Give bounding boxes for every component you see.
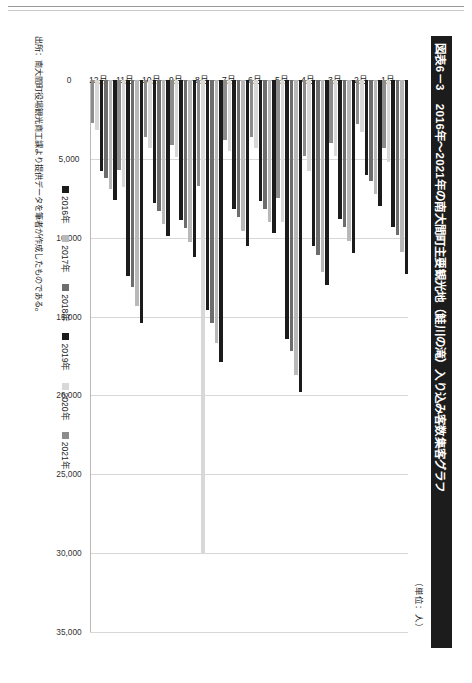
month-group: [196, 80, 223, 632]
bar-7月-2017年: [241, 80, 245, 231]
legend-swatch-icon: [63, 333, 70, 340]
bar-2月-2019年: [365, 80, 369, 175]
legend-label: 2021年: [60, 441, 72, 469]
bar-6月-2021年: [250, 80, 254, 137]
bar-10月-2019年: [153, 80, 157, 203]
bar-9月-2016年: [193, 80, 197, 257]
bar-2月-2018年: [369, 80, 373, 181]
bar-8月-2021年: [197, 80, 201, 186]
bar-4月-2018年: [316, 80, 320, 255]
bar-5月-2017年: [294, 80, 298, 375]
bar-4月-2016年: [325, 80, 329, 285]
bar-5月-2019年: [285, 80, 289, 339]
legend-label: 2017年: [60, 245, 72, 273]
bar-1月-2019年: [391, 80, 395, 227]
bar-3月-2020年: [334, 80, 338, 156]
bar-5月-2016年: [299, 80, 303, 392]
bar-10月-2016年: [166, 80, 170, 236]
month-group: [302, 80, 329, 632]
bar-2月-2020年: [360, 80, 364, 132]
legend-item-2018年: 2018年: [60, 284, 72, 322]
bar-11月-2021年: [117, 80, 121, 170]
bar-9月-2021年: [170, 80, 174, 145]
bar-8月-2020年: [201, 80, 205, 553]
x-axis-tick-label: 0: [49, 75, 89, 85]
chart-legend: 2016年2017年2018年2019年2020年2021年: [60, 186, 72, 470]
bar-12月-2016年: [113, 80, 117, 200]
bar-9月-2019年: [179, 80, 183, 220]
chart-plot-area: 05,00010,00015,00020,00025,00030,00035,0…: [90, 80, 408, 632]
source-note: 出所：南大間町役場観光商工課より提供データを筆者が作成したものである。: [34, 36, 46, 316]
bar-10月-2017年: [162, 80, 166, 224]
bar-8月-2018年: [210, 80, 214, 323]
x-axis-tick-label: 25,000: [49, 469, 89, 479]
bar-10月-2021年: [144, 80, 148, 137]
month-group: [117, 80, 144, 632]
bar-4月-2019年: [312, 80, 316, 246]
legend-label: 2016年: [60, 196, 72, 224]
bar-9月-2017年: [188, 80, 192, 242]
bar-7月-2019年: [232, 80, 236, 209]
bar-2月-2016年: [378, 80, 382, 206]
bar-11月-2017年: [135, 80, 139, 306]
bar-4月-2021年: [303, 80, 307, 156]
month-group: [143, 80, 170, 632]
bar-3月-2018年: [343, 80, 347, 227]
legend-label: 2020年: [60, 392, 72, 420]
bar-4月-2017年: [321, 80, 325, 272]
bar-6月-2017年: [268, 80, 272, 222]
bar-5月-2021年: [276, 80, 280, 198]
bar-1月-2021年: [382, 80, 386, 148]
bar-3月-2021年: [329, 80, 333, 143]
bar-12月-2021年: [91, 80, 95, 123]
bar-7月-2021年: [223, 80, 227, 140]
x-axis-tick-label: 5,000: [49, 153, 89, 163]
bar-4月-2020年: [307, 80, 311, 171]
bar-7月-2020年: [228, 80, 232, 151]
page-rule-top: [8, 6, 464, 7]
month-group: [249, 80, 276, 632]
legend-swatch-icon: [63, 186, 70, 193]
bar-6月-2016年: [272, 80, 276, 233]
legend-label: 2019年: [60, 343, 72, 371]
legend-swatch-icon: [63, 431, 70, 438]
rotated-page-stage: 図表6－3 2016年〜2021年の南大間町主要観光地（鮭川の滝）入り込み客数集…: [12, 18, 460, 666]
bar-11月-2020年: [122, 80, 126, 187]
legend-label: 2018年: [60, 294, 72, 322]
month-group: [355, 80, 382, 632]
bar-2月-2021年: [356, 80, 360, 124]
x-axis-tick-label: 35,000: [49, 627, 89, 637]
bar-7月-2016年: [246, 80, 250, 246]
month-group: [90, 80, 117, 632]
bar-5月-2018年: [290, 80, 294, 351]
bar-10月-2020年: [148, 80, 152, 148]
bar-12月-2020年: [95, 80, 99, 130]
unit-note: （単位：人）: [414, 578, 426, 632]
bar-8月-2017年: [215, 80, 219, 343]
bar-10月-2018年: [157, 80, 161, 211]
page-title: 2016年〜2021年の南大間町主要観光地（鮭川の滝）入り込み客数集客グラフ: [434, 90, 450, 492]
legend-swatch-icon: [63, 235, 70, 242]
bar-1月-2018年: [396, 80, 400, 235]
legend-item-2017年: 2017年: [60, 235, 72, 273]
bar-11月-2016年: [140, 80, 144, 323]
bar-5月-2020年: [281, 80, 285, 222]
legend-swatch-icon: [63, 382, 70, 389]
bar-3月-2019年: [338, 80, 342, 219]
bar-8月-2019年: [206, 80, 210, 310]
bar-3月-2017年: [347, 80, 351, 241]
month-group: [276, 80, 303, 632]
bar-1月-2017年: [400, 80, 404, 252]
bar-11月-2018年: [131, 80, 135, 287]
bar-1月-2020年: [387, 80, 391, 162]
legend-item-2016年: 2016年: [60, 186, 72, 224]
month-group: [382, 80, 409, 632]
legend-swatch-icon: [63, 284, 70, 291]
bar-3月-2016年: [352, 80, 356, 253]
bar-2月-2017年: [374, 80, 378, 194]
month-group: [223, 80, 250, 632]
bar-9月-2018年: [184, 80, 188, 228]
page-rule-secondary: [8, 10, 464, 11]
figure-number: 図表6－3: [434, 36, 450, 91]
bar-12月-2018年: [104, 80, 108, 178]
